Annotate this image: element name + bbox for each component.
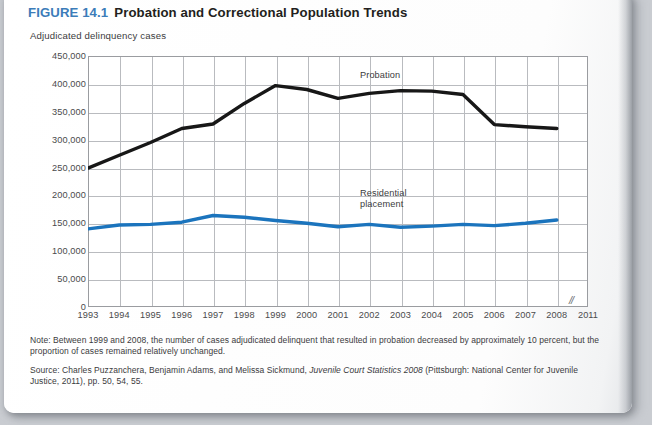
- y-axis-tick-label: 450,000: [30, 51, 86, 61]
- x-axis-tick-label: 2003: [390, 310, 411, 320]
- x-axis-tick-label: 2001: [328, 310, 349, 320]
- y-axis-tick-label: 200,000: [30, 190, 86, 200]
- source-italic-title: Juvenile Court Statistics 2008: [309, 365, 422, 375]
- figure-source: Source: Charles Puzzanchera, Benjamin Ad…: [30, 365, 608, 388]
- x-axis-tick-label: 2004: [421, 310, 442, 320]
- figure-title-text: Probation and Correctional Population Tr…: [114, 5, 407, 20]
- x-axis-tick-label: 1996: [171, 310, 192, 320]
- x-axis-tick-label: 1999: [265, 310, 286, 320]
- x-axis-tick-label: 1998: [234, 310, 255, 320]
- y-axis-tick-label: 100,000: [30, 246, 86, 256]
- y-axis-tick-label: 250,000: [30, 163, 86, 173]
- y-axis-tick-label: 350,000: [30, 107, 86, 117]
- figure-title: FIGURE 14.1Probation and Correctional Po…: [28, 5, 588, 20]
- y-axis-tick-label: 50,000: [30, 274, 86, 284]
- residential-placement-series-label: Residentialplacement: [360, 188, 407, 209]
- y-axis-tick-label: 300,000: [30, 135, 86, 145]
- y-axis-labels: 450,000400,000350,000300,000250,000200,0…: [30, 56, 86, 307]
- x-axis-tick-label: 2002: [359, 310, 380, 320]
- y-axis-tick-label: 150,000: [30, 218, 86, 228]
- x-axis-tick-label: 1994: [109, 310, 130, 320]
- figure-note: Note: Between 1999 and 2008, the number …: [30, 335, 608, 358]
- chart-subtitle: Adjudicated delinquency cases: [30, 30, 166, 41]
- x-axis-tick-label: 2005: [453, 310, 474, 320]
- page-edge-gradient: [618, 0, 632, 413]
- series-layer: [88, 56, 588, 307]
- x-axis-tick-label: 2000: [296, 310, 317, 320]
- figure-number: FIGURE 14.1: [28, 5, 108, 20]
- x-axis-tick-label: 2007: [515, 310, 536, 320]
- x-axis-labels: 1993199419951996199719981999200020012002…: [88, 310, 588, 324]
- x-axis-tick-label: 2011: [578, 310, 598, 320]
- x-axis-tick-label: 2006: [484, 310, 505, 320]
- chart-svg: [88, 56, 588, 307]
- line-chart: 450,000400,000350,000300,000250,000200,0…: [30, 42, 600, 327]
- probation-series-label: Probation: [360, 70, 400, 81]
- source-prefix: Source: Charles Puzzanchera, Benjamin Ad…: [30, 365, 309, 375]
- x-axis-tick-label: 1993: [78, 310, 99, 320]
- residential-placement-line: [88, 216, 557, 229]
- x-axis-tick-label: 2008: [546, 310, 567, 320]
- x-axis-tick-label: 1995: [140, 310, 161, 320]
- y-axis-tick-label: 400,000: [30, 79, 86, 89]
- probation-line: [88, 86, 557, 169]
- x-axis-tick-label: 1997: [203, 310, 224, 320]
- book-page: FIGURE 14.1Probation and Correctional Po…: [4, 0, 632, 413]
- axis-break-icon: //: [569, 294, 573, 306]
